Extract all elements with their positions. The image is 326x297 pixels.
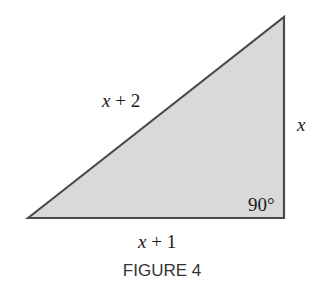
figure-canvas: x + 2 x 90° x + 1 FIGURE 4	[0, 0, 326, 297]
base-label: x + 1	[137, 231, 176, 252]
vertical-side-label: x	[296, 114, 306, 135]
figure-caption: FIGURE 4	[123, 261, 201, 280]
hypotenuse-label: x + 2	[101, 90, 140, 111]
right-angle-label: 90°	[248, 194, 275, 215]
right-triangle	[28, 17, 284, 218]
